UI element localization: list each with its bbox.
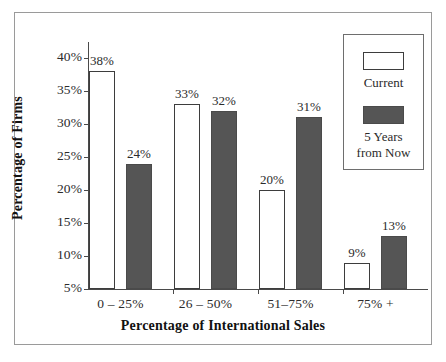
y-axis-tick-labels: 5%10%15%20%25%30%35%40% <box>30 0 82 362</box>
bar-value-label: 9% <box>335 246 379 260</box>
x-tick-label: 51–75% <box>246 296 336 312</box>
y-axis-title: Percentage of Firms <box>10 68 26 248</box>
bar-current <box>89 71 115 289</box>
y-tick-label: 10% <box>34 248 82 262</box>
legend-swatch-future <box>363 106 404 124</box>
y-tick-label: 30% <box>34 116 82 130</box>
bar-value-label: 20% <box>250 173 294 187</box>
y-tick-label: 20% <box>34 182 82 196</box>
x-tick-label: 26 – 50% <box>161 296 251 312</box>
y-tick-label: 40% <box>34 50 82 64</box>
y-tick-mark <box>84 289 89 290</box>
bar-value-label: 31% <box>287 100 331 114</box>
legend-label-future-line2: from Now <box>344 145 423 161</box>
bar-value-label: 24% <box>117 147 161 161</box>
bar-five-years <box>211 111 237 289</box>
bar-current <box>174 104 200 289</box>
y-tick-label: 35% <box>34 83 82 97</box>
bar-value-label: 38% <box>80 54 124 68</box>
bar-five-years <box>381 236 407 289</box>
x-axis-title: Percentage of International Sales <box>0 318 446 334</box>
x-tick-label: 0 – 25% <box>76 296 166 312</box>
y-tick-label: 25% <box>34 149 82 163</box>
chart-legend: Current 5 Years from Now <box>343 34 424 170</box>
legend-label-future-line1: 5 Years <box>344 129 423 145</box>
bar-five-years <box>126 164 152 289</box>
chart-figure: 5%10%15%20%25%30%35%40% 0 – 25%26 – 50%5… <box>0 0 446 362</box>
y-tick-label: 5% <box>34 281 82 295</box>
x-tick-mark <box>173 289 174 294</box>
bar-value-label: 32% <box>202 94 246 108</box>
bar-five-years <box>296 117 322 289</box>
y-tick-label: 15% <box>34 215 82 229</box>
bar-value-label: 13% <box>372 219 416 233</box>
x-tick-mark <box>258 289 259 294</box>
x-tick-label: 75% + <box>331 296 421 312</box>
bar-current <box>259 190 285 289</box>
legend-swatch-current <box>363 52 404 70</box>
x-tick-mark <box>343 289 344 294</box>
legend-label-current: Current <box>344 75 423 90</box>
bar-current <box>344 263 370 289</box>
